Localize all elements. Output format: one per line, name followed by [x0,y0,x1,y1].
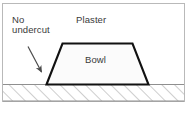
ground-hatch-fill [3,85,184,102]
ground-layer [3,85,184,102]
figure-container: No undercut Plaster Bowl [0,0,187,114]
label-plaster: Plaster [76,15,106,25]
label-no-undercut-line2: undercut [12,25,50,35]
label-no-undercut: No undercut [12,15,50,35]
label-bowl: Bowl [85,55,106,65]
